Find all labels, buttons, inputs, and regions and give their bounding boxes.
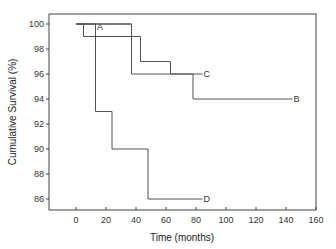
x-tick-label: 80 bbox=[191, 215, 201, 225]
y-axis-ticks: 86889092949698100 bbox=[29, 19, 49, 204]
x-tick-label: 160 bbox=[308, 215, 323, 225]
curve-label-c: C bbox=[204, 69, 211, 79]
y-tick-label: 96 bbox=[34, 69, 44, 79]
y-tick-label: 88 bbox=[34, 169, 44, 179]
y-tick-label: 90 bbox=[34, 144, 44, 154]
y-tick-label: 94 bbox=[34, 94, 44, 104]
x-tick-label: 0 bbox=[73, 215, 78, 225]
curve-label-b: B bbox=[294, 94, 300, 104]
y-axis-label: Cumulative Survival (%) bbox=[7, 59, 18, 166]
x-axis-label: Time (months) bbox=[150, 232, 214, 243]
y-tick-label: 100 bbox=[29, 19, 44, 29]
x-tick-label: 20 bbox=[101, 215, 111, 225]
x-tick-label: 60 bbox=[161, 215, 171, 225]
y-tick-label: 86 bbox=[34, 194, 44, 204]
curve-b bbox=[76, 24, 289, 99]
y-tick-label: 92 bbox=[34, 119, 44, 129]
x-tick-label: 100 bbox=[218, 215, 233, 225]
survival-curves bbox=[76, 24, 293, 199]
plot-frame bbox=[49, 14, 316, 210]
x-tick-label: 40 bbox=[131, 215, 141, 225]
y-tick-label: 98 bbox=[34, 44, 44, 54]
plot-border bbox=[49, 14, 316, 210]
x-tick-label: 140 bbox=[278, 215, 293, 225]
curve-label-d: D bbox=[204, 194, 211, 204]
x-tick-label: 120 bbox=[248, 215, 263, 225]
survival-chart: 020406080100120140160 86889092949698100 … bbox=[0, 0, 336, 249]
curve-label-a: A bbox=[97, 22, 103, 32]
curve-c bbox=[76, 24, 201, 74]
curve-d bbox=[76, 24, 199, 199]
curve-labels: ABCD bbox=[97, 22, 300, 204]
